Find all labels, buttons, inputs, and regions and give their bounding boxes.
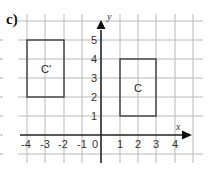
svg-text:4: 4 [172, 138, 178, 150]
svg-text:3: 3 [91, 72, 97, 84]
svg-text:2: 2 [135, 138, 141, 150]
y-axis-label: y [106, 11, 112, 22]
svg-text:2: 2 [91, 91, 97, 103]
coordinate-grid-diagram: x y -4 -3 -2 -1 0 1 2 3 4 1 2 3 4 5 C C′… [0, 0, 215, 173]
svg-text:1: 1 [91, 110, 97, 122]
y-tick-labels: 1 2 3 4 5 [91, 34, 97, 122]
label-c-prime: C′ [41, 63, 51, 75]
svg-text:3: 3 [153, 138, 159, 150]
svg-text:5: 5 [91, 34, 97, 46]
svg-text:1: 1 [117, 138, 123, 150]
x-tick-labels: -4 -3 -2 -1 0 1 2 3 4 [21, 138, 178, 150]
svg-text:-2: -2 [58, 138, 68, 150]
svg-text:-3: -3 [40, 138, 50, 150]
x-axis-label: x [175, 121, 181, 132]
svg-text:-1: -1 [77, 138, 87, 150]
x-axis-arrow-icon [182, 131, 192, 140]
edge-ticks [0, 40, 3, 154]
svg-text:4: 4 [91, 53, 97, 65]
part-label: c) [6, 11, 18, 28]
svg-text:-4: -4 [21, 138, 31, 150]
svg-text:0: 0 [92, 138, 98, 150]
label-c: C [134, 82, 142, 94]
